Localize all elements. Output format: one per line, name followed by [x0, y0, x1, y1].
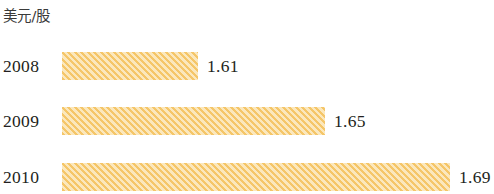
category-label-2008: 2008	[3, 52, 39, 80]
bar-2009	[62, 107, 325, 135]
category-label-2010: 2010	[3, 163, 39, 191]
value-label-2010: 1.69	[459, 163, 491, 191]
bar-2008	[62, 52, 198, 80]
table-row: 2010 1.69	[0, 163, 494, 191]
table-row: 2009 1.65	[0, 107, 494, 135]
table-row: 2008 1.61	[0, 52, 494, 80]
category-label-2009: 2009	[3, 107, 39, 135]
bar-rows: 2008 1.61 2009 1.65 2010 1.69	[0, 0, 494, 194]
bar-chart: 美元/股 2008 1.61 2009 1.65 2010 1.69	[0, 0, 494, 194]
value-label-2009: 1.65	[334, 107, 366, 135]
value-label-2008: 1.61	[207, 52, 239, 80]
bar-2010	[62, 163, 450, 191]
